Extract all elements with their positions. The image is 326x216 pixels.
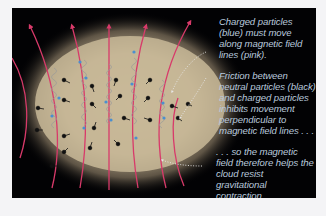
annotation-conclusion: . . . so the magnetic field therefore he… [216, 146, 316, 198]
molecular-cloud [12, 12, 250, 196]
annotation-charged-particles: Charged particles (blue) must move along… [219, 16, 314, 60]
annotation-friction: Friction between neutral particles (blac… [219, 70, 316, 136]
illustration-panel: Charged particles (blue) must move along… [12, 8, 316, 198]
